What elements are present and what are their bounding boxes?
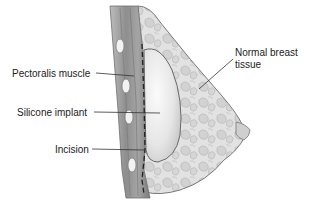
label-silicone-implant: Silicone implant: [17, 107, 87, 118]
label-normal-breast-tissue-line1: Normal breast: [235, 47, 298, 58]
label-normal-breast-tissue-line2: tissue: [235, 59, 261, 70]
label-incision: Incision: [55, 144, 89, 155]
breast-implant-diagram: [0, 0, 312, 204]
label-pectoralis-muscle: Pectoralis muscle: [12, 68, 90, 79]
leader-breast-tissue: [199, 59, 233, 89]
rib: [122, 79, 130, 93]
rib: [128, 158, 136, 172]
rib: [116, 39, 124, 53]
